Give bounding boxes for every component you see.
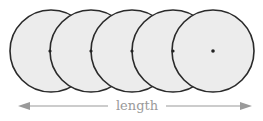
length-label: length bbox=[116, 98, 159, 113]
center-dot-1 bbox=[48, 49, 51, 52]
length-arrow: length bbox=[18, 98, 252, 113]
center-dot-3 bbox=[130, 49, 133, 52]
center-dot-5 bbox=[211, 49, 215, 53]
right-arrowhead-icon bbox=[240, 102, 252, 110]
center-dot-4 bbox=[171, 49, 174, 52]
center-dot-2 bbox=[89, 49, 92, 52]
left-arrowhead-icon bbox=[18, 102, 30, 110]
overlapping-circles-diagram: length bbox=[0, 0, 263, 121]
